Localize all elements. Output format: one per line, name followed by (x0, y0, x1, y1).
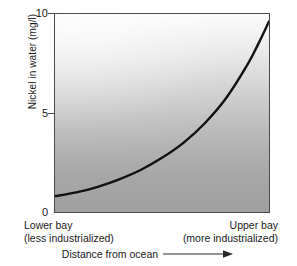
x-axis-right-category: Upper bay (more industrialized) (183, 219, 278, 245)
data-series-curve (55, 21, 269, 196)
y-axis-label: Nickel in water (mg/l) (27, 0, 38, 142)
data-curve-svg (55, 14, 269, 212)
arrow-right-icon (163, 249, 235, 259)
x-axis-title: Distance from ocean (62, 248, 158, 260)
x-axis-title-row: Distance from ocean (0, 248, 297, 260)
x-axis-left-category-line1: Lower bay (24, 219, 114, 232)
x-axis-right-category-line2: (more industrialized) (183, 232, 278, 245)
nickel-concentration-chart: Nickel in water (mg/l) 10 5 0 Lower bay … (0, 0, 297, 266)
x-axis-left-category: Lower bay (less industrialized) (24, 219, 114, 245)
y-axis-tick-label-0: 0 (28, 207, 48, 218)
y-axis-tick-label-10: 10 (28, 8, 48, 19)
y-axis-tick-label-5: 5 (28, 108, 48, 119)
plot-area (54, 13, 270, 213)
x-axis-right-category-line1: Upper bay (183, 219, 278, 232)
x-axis-left-category-line2: (less industrialized) (24, 232, 114, 245)
